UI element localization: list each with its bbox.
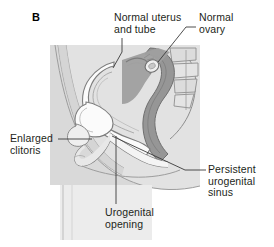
label-normal-uterus-and-tube: Normal uterus and tube bbox=[114, 12, 181, 35]
label-persistent-urogenital-sinus: Persistent urogenital sinus bbox=[208, 164, 256, 199]
figure-panel-b: B Normal uterus and tube Normal ovary En… bbox=[0, 0, 274, 247]
label-urogenital-opening: Urogenital opening bbox=[105, 207, 154, 230]
panel-letter: B bbox=[32, 11, 40, 23]
label-normal-ovary: Normal ovary bbox=[199, 12, 233, 35]
label-enlarged-clitoris: Enlarged clitoris bbox=[10, 133, 53, 156]
